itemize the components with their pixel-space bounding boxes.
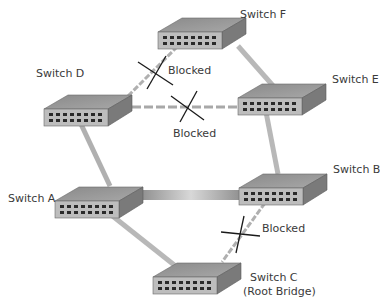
switch-c [153,263,241,294]
switch-f-label: Switch F [240,8,286,21]
link-d-a [80,122,110,186]
switch-b-label: Switch B [333,163,380,176]
blocked-markers [138,56,260,253]
link-a-c [110,214,178,268]
switch-d [44,95,132,126]
switch-c-sublabel: (Root Bridge) [243,285,316,298]
switch-d-label: Switch D [36,67,84,80]
link-a-b [140,190,242,200]
switch-f [158,18,246,49]
switch-b [239,174,327,205]
link-f-e [238,46,275,88]
switch-e [238,84,326,115]
switch-a-label: Switch A [8,192,55,205]
blocked-label-b-c: Blocked [262,222,305,235]
switch-c-label: Switch C [250,271,298,284]
switch-e-label: Switch E [332,73,379,86]
blocked-label-d-e: Blocked [173,127,216,140]
switch-a [55,187,143,218]
link-e-b [266,112,278,174]
blocked-label-d-f: Blocked [168,64,211,77]
blocked-x-icon-b-c [221,216,260,253]
